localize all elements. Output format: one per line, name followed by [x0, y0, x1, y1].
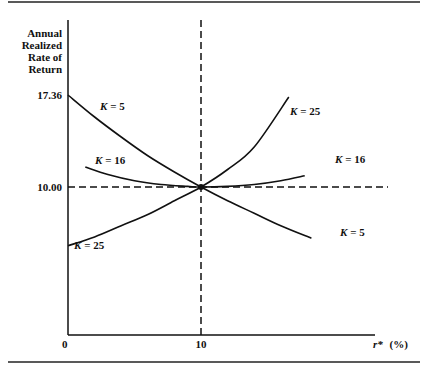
curve-label-k16: K= 16 — [94, 154, 126, 166]
y-axis-label-line-3: Return — [28, 63, 62, 75]
curve-label-value: = 5 — [350, 226, 365, 238]
x-axis-label-unit: (%) — [390, 338, 409, 351]
curve-label-value: = 5 — [110, 100, 125, 112]
curve-label-k5: K= 5 — [339, 226, 365, 238]
curve-label-var: K — [99, 100, 108, 112]
curve-label-value: = 16 — [105, 154, 126, 166]
x-tick-label: 0 — [62, 338, 68, 350]
curve-label-value: = 25 — [300, 105, 321, 117]
curve-label-value: = 16 — [345, 153, 366, 165]
curve-label-k25: K= 25 — [73, 239, 105, 251]
y-axis-label-line-0: Annual — [27, 27, 62, 39]
curve-label-k25: K= 25 — [289, 105, 321, 117]
curve-label-var: K — [289, 105, 298, 117]
intersection-point — [198, 184, 204, 190]
curve-label-var: K — [339, 226, 348, 238]
y-tick-label: 10.00 — [37, 181, 62, 193]
curve-label-value: = 25 — [84, 239, 105, 251]
y-axis-label-line-1: Realized — [22, 39, 62, 51]
x-axis-label-var: r* — [373, 338, 383, 350]
curve-label-var: K — [73, 239, 82, 251]
curve-label-var: K — [94, 154, 103, 166]
series-line-k5 — [68, 95, 311, 238]
x-tick-label: 10 — [196, 338, 208, 350]
x-axis-label: r* (%) — [373, 338, 408, 351]
y-axis-label-line-2: Rate of — [28, 51, 62, 63]
curve-label-k16: K= 16 — [334, 153, 366, 165]
y-tick-label: 17.36 — [37, 89, 62, 101]
series-line-k25 — [68, 97, 289, 246]
curve-label-k5: K= 5 — [99, 100, 125, 112]
chart-svg: Annual Realized Rate of Return 10.0017.3… — [0, 0, 428, 370]
y-axis-label: Annual Realized Rate of Return — [22, 27, 63, 75]
curve-label-var: K — [334, 153, 343, 165]
